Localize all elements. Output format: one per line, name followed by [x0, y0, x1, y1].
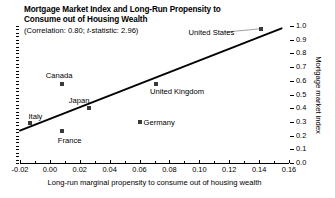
- y-tick-label: 0.2: [296, 131, 306, 140]
- y-tick-minor-left: [16, 122, 19, 123]
- y-tick-label: 0.4: [296, 103, 306, 112]
- y-tick-minor-left: [16, 77, 19, 78]
- y-tick-minor-left: [16, 57, 19, 58]
- y-tick-label: 0.1: [296, 144, 306, 153]
- y-tick-minor-left: [16, 153, 19, 154]
- y-tick-minor-left: [16, 139, 19, 140]
- y-tick-major: [290, 108, 294, 109]
- data-point-label: Japan: [69, 96, 90, 105]
- y-tick-minor-left: [16, 81, 19, 82]
- y-tick-minor-left: [16, 50, 19, 51]
- y-tick-minor-left: [16, 88, 19, 89]
- y-axis-title: Mortgage market index: [312, 26, 324, 163]
- y-tick-minor-left: [16, 146, 19, 147]
- y-tick-minor-left: [16, 84, 19, 85]
- y-tick-minor-left: [16, 149, 19, 150]
- y-tick-major: [290, 81, 294, 82]
- y-tick-minor-left: [16, 91, 19, 92]
- data-point-marker: [154, 82, 158, 86]
- chart-figure: Mortgage Market Index and Long-Run Prope…: [0, 0, 335, 198]
- y-tick-minor-left: [16, 132, 19, 133]
- y-tick-minor-left: [16, 129, 19, 130]
- y-tick-major: [290, 163, 294, 164]
- plot-area: ItalyFranceCanadaJapanGermanyUnited King…: [20, 26, 289, 163]
- y-tick-minor-left: [16, 67, 19, 68]
- y-tick-label: 0.0: [296, 158, 306, 167]
- y-axis-title-text: Mortgage market index: [314, 56, 323, 134]
- data-point-label: Canada: [46, 71, 73, 80]
- y-tick-minor-left: [16, 160, 19, 161]
- y-tick-major: [290, 122, 294, 123]
- y-tick-label: 0.5: [296, 90, 306, 99]
- y-tick-minor-left: [16, 36, 19, 37]
- y-tick-minor-left: [16, 33, 19, 34]
- y-tick-major: [290, 149, 294, 150]
- y-tick-minor-left: [16, 71, 19, 72]
- y-tick-label: 1.0: [296, 21, 306, 30]
- data-point-marker: [60, 82, 64, 86]
- y-tick-major: [290, 136, 294, 137]
- data-point-marker: [28, 121, 32, 125]
- y-tick-minor-left: [16, 105, 19, 106]
- y-tick-minor-left: [16, 47, 19, 48]
- y-tick-minor-left: [16, 43, 19, 44]
- y-tick-minor-left: [16, 163, 19, 164]
- y-tick-major: [290, 67, 294, 68]
- y-tick-minor-left: [16, 136, 19, 137]
- data-point-marker: [87, 106, 91, 110]
- x-axis-title: Long-run marginal propensity to consume …: [20, 178, 289, 187]
- y-tick-label: 0.3: [296, 117, 306, 126]
- y-tick-minor-left: [16, 112, 19, 113]
- y-tick-minor-left: [16, 74, 19, 75]
- y-tick-minor-left: [16, 40, 19, 41]
- y-tick-major: [290, 95, 294, 96]
- y-tick-minor-left: [16, 98, 19, 99]
- data-point-marker: [259, 27, 263, 31]
- y-tick-minor-left: [16, 60, 19, 61]
- data-point-label: Italy: [28, 112, 42, 121]
- data-point-label: Germany: [144, 118, 175, 127]
- y-tick-minor-left: [16, 95, 19, 96]
- y-tick-label: 0.7: [296, 62, 306, 71]
- y-tick-minor-left: [16, 26, 19, 27]
- y-tick-minor-left: [16, 115, 19, 116]
- y-tick-major: [290, 53, 294, 54]
- y-tick-minor-left: [16, 29, 19, 30]
- y-tick-minor-left: [16, 125, 19, 126]
- y-tick-label: 0.8: [296, 48, 306, 57]
- x-axis-line: [20, 163, 289, 164]
- data-point-label: United States: [189, 28, 235, 37]
- chart-title-line-2: Consume out of Housing Wealth: [24, 15, 239, 25]
- y-tick-major: [290, 26, 294, 27]
- chart-title-line-1: Mortgage Market Index and Long-Run Prope…: [24, 5, 239, 15]
- y-tick-label: 0.6: [296, 76, 306, 85]
- data-point-marker: [138, 120, 142, 124]
- y-tick-minor-left: [16, 108, 19, 109]
- y-tick-minor-left: [16, 101, 19, 102]
- y-tick-minor-left: [16, 64, 19, 65]
- data-point-marker: [60, 129, 64, 133]
- y-tick-major: [290, 40, 294, 41]
- data-point-label: United Kingdom: [150, 87, 204, 96]
- y-tick-minor-left: [16, 156, 19, 157]
- y-tick-label: 0.9: [296, 35, 306, 44]
- data-point-label: France: [58, 136, 82, 145]
- y-tick-minor-left: [16, 142, 19, 143]
- y-tick-minor-left: [16, 53, 19, 54]
- y-tick-minor-left: [16, 118, 19, 119]
